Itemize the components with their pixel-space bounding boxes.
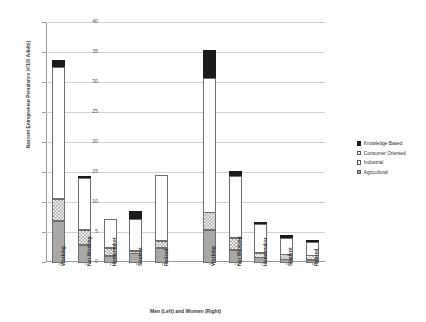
bar-segment-consumer <box>229 176 242 238</box>
bar-segment-knowledge <box>203 50 216 79</box>
legend-item[interactable]: Agricultural <box>357 170 423 175</box>
legend-swatch-consumer <box>357 151 361 155</box>
legend-label: Knowledge Based <box>364 141 403 146</box>
legend-swatch-knowledge <box>357 141 361 145</box>
bar-working[interactable] <box>203 50 216 262</box>
legend-item[interactable]: Industrial <box>357 160 423 165</box>
x-tick-label: Not Working <box>87 236 92 266</box>
x-tick-label: Retired <box>164 249 169 266</box>
x-tick-label: Student <box>138 247 143 266</box>
y-axis-title: Nascent Entrepreneur Prevalence (#/100 A… <box>26 15 31 175</box>
legend-item[interactable]: Consumer Oriented <box>357 151 423 156</box>
legend-label: Agricultural <box>364 170 388 175</box>
stacked-bar-chart: Nascent Entrepreneur Prevalence (#/100 A… <box>0 0 426 322</box>
chart-legend: Knowledge BasedConsumer OrientedIndustri… <box>357 141 423 179</box>
x-tick-label: Working <box>61 246 66 266</box>
legend-swatch-agricultural <box>357 170 361 174</box>
x-tick-label: Homemaker <box>112 237 117 266</box>
bar-working[interactable] <box>52 60 65 262</box>
legend-item[interactable]: Knowledge Based <box>357 141 423 146</box>
legend-label: Consumer Oriented <box>364 151 406 156</box>
x-axis-title: Men (Left) and Women (Right) <box>46 308 325 314</box>
y-tick-mark <box>42 262 46 263</box>
x-tick-label: Homemaker <box>263 237 268 266</box>
x-tick-label: Student <box>288 247 293 266</box>
bars-container <box>46 22 325 262</box>
bar-segment-consumer <box>203 78 216 213</box>
x-tick-label: Retired <box>314 249 319 266</box>
bar-segment-consumer <box>52 67 65 199</box>
bar-segment-consumer <box>78 178 91 230</box>
x-tick-label: Not Working <box>237 236 242 266</box>
legend-swatch-industrial <box>357 160 361 164</box>
x-tick-label: Working <box>211 246 216 266</box>
legend-label: Industrial <box>364 160 383 165</box>
bar-segment-industrial <box>203 212 216 230</box>
bar-segment-consumer <box>155 175 168 241</box>
bar-segment-industrial <box>52 199 65 222</box>
